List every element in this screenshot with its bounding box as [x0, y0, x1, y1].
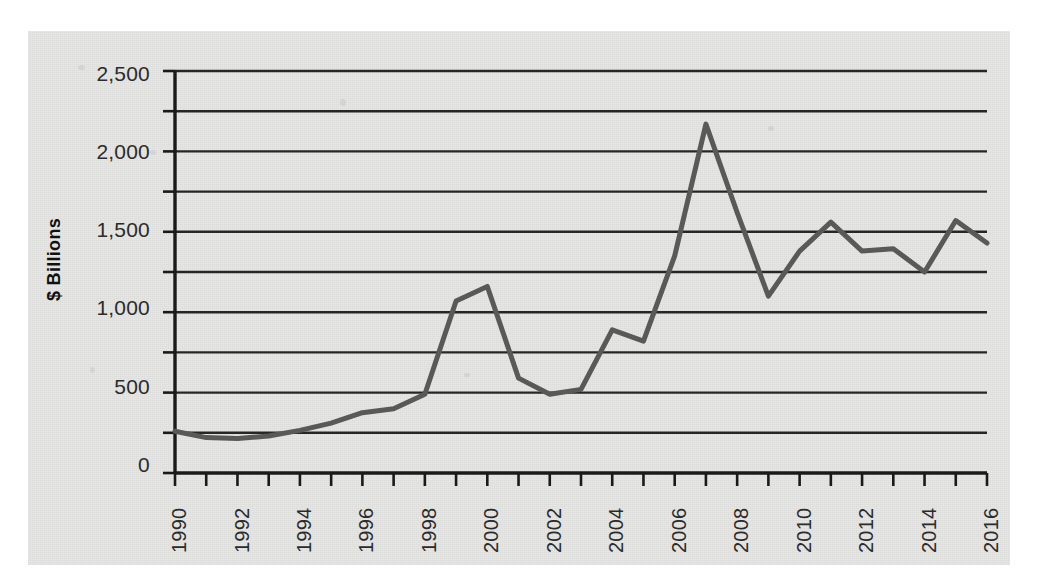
chart-figure: $ Billions 2,500 2,000 1,500 1,000 500 0… [0, 0, 1048, 579]
y-axis-ticks [163, 71, 175, 473]
plot-area [0, 0, 1048, 579]
data-series-line [175, 124, 987, 438]
x-axis-ticks [175, 473, 987, 486]
